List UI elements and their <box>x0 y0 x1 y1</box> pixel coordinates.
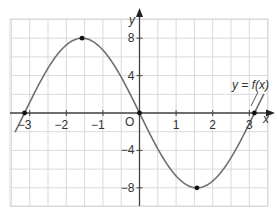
y-axis-label: y <box>128 13 136 27</box>
marked-point <box>252 111 257 116</box>
marked-point <box>195 185 200 190</box>
svg-text:2: 2 <box>209 118 216 132</box>
marked-point <box>137 111 142 116</box>
marked-point <box>80 36 85 41</box>
svg-text:−3: −3 <box>18 118 32 132</box>
marked-point <box>22 111 27 116</box>
svg-text:−4: −4 <box>121 143 135 157</box>
svg-text:4: 4 <box>128 69 135 83</box>
function-graph: −3−2−112384−4−8 x y y = f(x) O <box>0 0 277 216</box>
curve-label: y = f(x) <box>231 78 269 92</box>
svg-text:−8: −8 <box>121 181 135 195</box>
svg-text:8: 8 <box>128 31 135 45</box>
svg-text:−2: −2 <box>54 118 68 132</box>
x-axis-label: x <box>262 112 270 126</box>
svg-text:3: 3 <box>246 118 253 132</box>
svg-text:1: 1 <box>173 118 180 132</box>
svg-text:−1: −1 <box>91 118 105 132</box>
origin-label: O <box>125 115 134 129</box>
